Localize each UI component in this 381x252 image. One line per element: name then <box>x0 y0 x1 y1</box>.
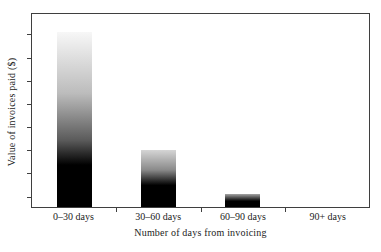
x-category-label-1: 30–60 days <box>116 211 201 222</box>
bar-slot-1 <box>116 14 200 207</box>
plot-area <box>31 13 370 208</box>
y-axis-tick-0 <box>27 34 31 35</box>
y-axis-tick-5 <box>27 150 31 151</box>
bar-slot-3 <box>285 14 369 207</box>
bar-0-30-days <box>57 32 92 207</box>
x-category-label-2: 60–90 days <box>201 211 286 222</box>
bars-container <box>32 14 369 207</box>
bar-chart-figure: Value of invoices paid ($) 0–30 days30–6… <box>0 0 381 252</box>
y-axis-tick-6 <box>27 173 31 174</box>
y-axis-label: Value of invoices paid ($) <box>6 58 17 167</box>
x-category-labels: 0–30 days30–60 days60–90 days90+ days <box>31 211 370 222</box>
y-axis-tick-7 <box>27 197 31 198</box>
y-axis-tick-3 <box>27 104 31 105</box>
x-category-label-3: 90+ days <box>285 211 370 222</box>
x-axis-label: Number of days from invoicing <box>31 227 370 238</box>
bar-slot-0 <box>32 14 116 207</box>
y-axis-tick-1 <box>27 58 31 59</box>
x-category-label-0: 0–30 days <box>31 211 116 222</box>
bar-30-60-days <box>141 150 176 207</box>
bar-slot-2 <box>201 14 285 207</box>
y-axis-tick-2 <box>27 81 31 82</box>
bar-60-90-days <box>225 194 260 207</box>
y-axis-tick-4 <box>27 127 31 128</box>
